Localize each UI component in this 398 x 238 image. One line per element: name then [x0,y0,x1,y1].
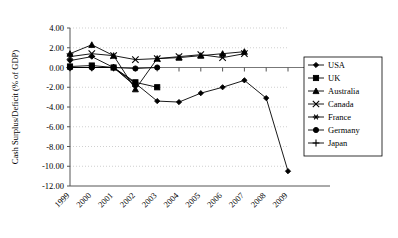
y-tick-label: -8.00 [46,142,64,152]
legend-label-australia: Australia [328,86,359,96]
legend-label-usa: USA [328,60,346,70]
y-tick-label: -12.00 [42,181,64,191]
y-tick-label: -6.00 [46,122,64,132]
y-axis-title-label: Cash Surplus/Deficit (% of GDP) [10,50,20,164]
legend-label-uk: UK [328,73,341,83]
chart-legend: USAUKAustraliaCanadaFranceGermanyJapan [304,57,382,156]
data-point-marker-circle [155,65,160,70]
cash-surplus-deficit-line-chart: 4.002.000.00-2.00-4.00-6.00-8.00-10.00-1… [0,0,398,238]
y-tick-label: -4.00 [46,102,64,112]
y-axis-title: Cash Surplus/Deficit (% of GDP) [10,50,20,164]
data-point-marker-square [155,85,160,90]
y-tick-label: 0.00 [49,63,64,73]
data-point-marker-circle [133,66,138,71]
legend-label-france: France [328,112,351,122]
chart-container: 4.002.000.00-2.00-4.00-6.00-8.00-10.00-1… [0,0,398,238]
y-tick-label: 2.00 [49,43,64,53]
data-point-marker-circle [313,127,318,132]
data-point-marker-square [313,75,318,80]
y-tick-label: -10.00 [42,161,64,171]
y-tick-label: 4.00 [49,23,64,33]
legend-label-canada: Canada [328,99,354,109]
legend-label-germany: Germany [328,125,360,135]
y-tick-label: -2.00 [46,82,64,92]
legend-label-japan: Japan [328,138,348,148]
